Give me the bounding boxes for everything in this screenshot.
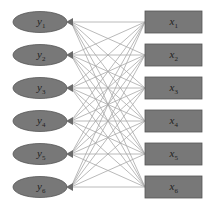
node-subscript: 6	[175, 187, 179, 195]
node-subscript: 4	[175, 121, 179, 129]
node-subscript: 4	[42, 121, 46, 129]
node-y1: y1	[13, 12, 73, 33]
node-x1: x1	[145, 11, 202, 33]
node-y4: y4	[13, 111, 73, 132]
node-subscript: 3	[42, 88, 46, 96]
node-y5: y5	[13, 144, 73, 165]
node-subscript: 1	[175, 22, 179, 30]
node-x4: x4	[145, 110, 202, 132]
arrowhead-icon	[66, 18, 73, 26]
node-subscript: 2	[175, 55, 179, 63]
arrowhead-icon	[66, 183, 73, 191]
edges	[71, 22, 145, 187]
node-subscript: 1	[42, 22, 46, 30]
diagram-canvas: y1y2y3y4y5y6x1x2x3x4x5x6	[0, 0, 210, 207]
bipartite-diagram: y1y2y3y4y5y6x1x2x3x4x5x6	[0, 0, 210, 207]
node-y2: y2	[13, 45, 73, 66]
arrowhead-icon	[66, 117, 73, 125]
node-y3: y3	[13, 78, 73, 99]
node-x5: x5	[145, 143, 202, 165]
node-subscript: 2	[42, 55, 46, 63]
arrowhead-icon	[66, 84, 73, 92]
arrowhead-icon	[66, 150, 73, 158]
node-y6: y6	[13, 177, 73, 198]
node-x3: x3	[145, 77, 202, 99]
node-x2: x2	[145, 44, 202, 66]
node-subscript: 3	[175, 88, 179, 96]
node-subscript: 5	[42, 154, 46, 162]
arrowhead-icon	[66, 51, 73, 59]
node-subscript: 5	[175, 154, 179, 162]
node-x6: x6	[145, 176, 202, 198]
node-subscript: 6	[42, 187, 46, 195]
